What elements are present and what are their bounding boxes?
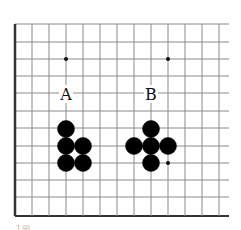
black-stone-group-b bbox=[143, 155, 160, 172]
black-stone-group-a bbox=[58, 155, 75, 172]
black-stone-group-b bbox=[143, 138, 160, 155]
go-board: AB bbox=[0, 0, 241, 230]
black-stone-group-b bbox=[160, 138, 177, 155]
star-point-icon bbox=[64, 57, 68, 61]
black-stone-group-a bbox=[58, 138, 75, 155]
black-stone-group-b bbox=[143, 121, 160, 138]
position-labels: AB bbox=[59, 85, 158, 104]
black-stone-group-b bbox=[126, 138, 143, 155]
position-label-a: A bbox=[59, 85, 72, 104]
star-point-icon bbox=[166, 57, 170, 61]
diagram-caption: 1図 bbox=[16, 223, 31, 230]
black-stone-group-a bbox=[75, 138, 92, 155]
star-point-icon bbox=[166, 161, 170, 165]
black-stone-group-a bbox=[75, 155, 92, 172]
grid-lines bbox=[15, 24, 229, 216]
black-stone-group-a bbox=[58, 121, 75, 138]
position-label-b: B bbox=[145, 85, 157, 104]
